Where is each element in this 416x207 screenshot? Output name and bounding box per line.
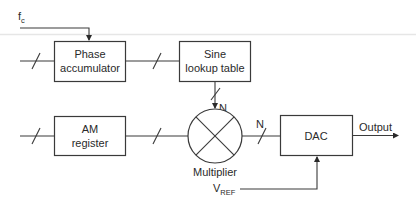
sine-lookup-label-1: Sine xyxy=(204,48,226,60)
dds-am-block-diagram: fc Phase accumulator Sine lookup table N… xyxy=(0,0,416,207)
phase-accumulator-label-1: Phase xyxy=(74,48,105,60)
dac-label: DAC xyxy=(304,130,327,142)
sine-lookup-label-2: lookup table xyxy=(185,62,244,74)
am-register-block: AM register xyxy=(20,117,126,156)
multiplier-label: Multiplier xyxy=(193,166,237,178)
sine-lookup-block: Sine lookup table xyxy=(180,42,251,82)
vref-wire xyxy=(240,157,317,189)
am-register-label-2: register xyxy=(72,137,109,149)
am-register-label-1: AM xyxy=(82,123,99,135)
phase-accumulator-label-2: accumulator xyxy=(60,62,120,74)
phase-accumulator-block: Phase accumulator xyxy=(20,42,126,82)
vref-label: VREF xyxy=(213,182,236,197)
multiplier-block: Multiplier xyxy=(188,109,242,178)
dac-block: DAC xyxy=(281,116,353,156)
fc-input: fc xyxy=(18,10,89,40)
output-label: Output xyxy=(359,121,392,133)
fc-label: fc xyxy=(18,10,25,25)
dac-bus-width-label: N xyxy=(256,118,264,130)
